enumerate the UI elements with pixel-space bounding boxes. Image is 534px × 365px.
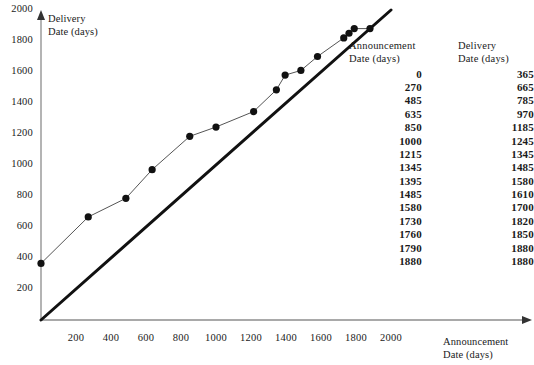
x-axis-tick-label: 1800 [339,332,373,343]
data-point-markers [37,25,373,267]
table-row: 10001245 [349,134,534,147]
data-point-marker[interactable] [85,213,92,220]
table-row: 18801880 [349,254,534,267]
data-point-marker[interactable] [273,86,280,93]
data-point-marker[interactable] [366,25,373,32]
cell-announcement-date: 1215 [349,147,422,160]
cell-delivery-date: 1880 [422,241,534,254]
data-point-marker[interactable] [314,53,321,60]
data-point-marker[interactable] [37,260,44,267]
data-series-line [41,29,370,264]
x-axis-tick-label: 1600 [304,332,338,343]
chart-page: Delivery Date (days) Announcement Date (… [0,0,534,365]
cell-announcement-date: 1345 [349,161,422,174]
table-row: 8501185 [349,121,534,134]
cell-delivery-date: 970 [422,107,534,120]
cell-delivery-date: 365 [422,67,534,80]
x-axis-tick-label: 200 [59,332,93,343]
table-row: 17301820 [349,214,534,227]
cell-announcement-date: 1395 [349,174,422,187]
cell-announcement-date: 850 [349,121,422,134]
cell-announcement-date: 485 [349,94,422,107]
y-axis-title: Delivery Date (days) [48,13,98,38]
cell-delivery-date: 1185 [422,121,534,134]
table-row: 485785 [349,94,534,107]
y-axis-tick-label: 800 [3,189,33,200]
y-axis-tick-label: 400 [3,251,33,262]
table-header-row: Announcement Date (days) Delivery Date (… [349,40,534,67]
cell-delivery-date: 1245 [422,134,534,147]
cell-announcement-date: 1790 [349,241,422,254]
cell-delivery-date: 1580 [422,174,534,187]
y-axis-tick-label: 1000 [3,158,33,169]
x-axis-tick-label: 400 [94,332,128,343]
cell-delivery-date: 1820 [422,214,534,227]
table-row: 0365 [349,67,534,80]
x-axis-tick-label: 800 [164,332,198,343]
y-axis-tick-label: 1200 [3,127,33,138]
table-row: 17601850 [349,228,534,241]
column-header-announcement: Announcement Date (days) [349,40,422,67]
data-point-marker[interactable] [149,166,156,173]
y-axis-tick-label: 600 [3,220,33,231]
table-row: 270665 [349,80,534,93]
table-row: 13951580 [349,174,534,187]
table-row: 14851610 [349,187,534,200]
cell-delivery-date: 1700 [422,201,534,214]
y-axis-tick-label: 1400 [3,96,33,107]
cell-announcement-date: 1760 [349,228,422,241]
table-row: 17901880 [349,241,534,254]
column-header-delivery: Delivery Date (days) [422,40,534,67]
data-point-marker[interactable] [122,195,129,202]
x-axis-tick-label: 1000 [199,332,233,343]
cell-delivery-date: 1850 [422,228,534,241]
cell-delivery-date: 1485 [422,161,534,174]
table-row: 15801700 [349,201,534,214]
table-row: 12151345 [349,147,534,160]
cell-delivery-date: 1610 [422,187,534,200]
cell-announcement-date: 1485 [349,187,422,200]
x-axis-tick-label: 2000 [374,332,408,343]
table-row: 13451485 [349,161,534,174]
cell-announcement-date: 0 [349,67,422,80]
table-row: 635970 [349,107,534,120]
y-axis-tick-label: 1800 [3,34,33,45]
cell-announcement-date: 1000 [349,134,422,147]
x-axis-tick-label: 1400 [269,332,303,343]
data-point-marker[interactable] [297,67,304,74]
data-point-marker[interactable] [250,108,257,115]
cell-announcement-date: 635 [349,107,422,120]
cell-delivery-date: 785 [422,94,534,107]
x-axis-title: Announcement Date (days) [443,336,508,361]
data-point-marker[interactable] [351,25,358,32]
identity-reference-line [41,10,391,320]
cell-delivery-date: 1345 [422,147,534,160]
y-axis-tick-label: 200 [3,282,33,293]
cell-announcement-date: 1580 [349,201,422,214]
data-point-marker[interactable] [282,72,289,79]
cell-delivery-date: 665 [422,80,534,93]
cell-announcement-date: 270 [349,80,422,93]
cell-delivery-date: 1880 [422,254,534,267]
data-point-marker[interactable] [186,133,193,140]
x-axis-tick-label: 600 [129,332,163,343]
data-point-marker[interactable] [212,123,219,130]
data-table: Announcement Date (days) Delivery Date (… [349,40,534,268]
cell-announcement-date: 1730 [349,214,422,227]
cell-announcement-date: 1880 [349,254,422,267]
table-body: 0365270665485785635970850118510001245121… [349,67,534,268]
y-axis-tick-label: 2000 [3,3,33,14]
y-axis-tick-label: 1600 [3,65,33,76]
x-axis-tick-label: 1200 [234,332,268,343]
